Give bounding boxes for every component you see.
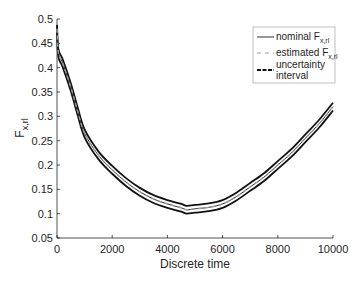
y-tick-label: 0.45 (32, 37, 53, 49)
x-tick-label: 8000 (266, 243, 290, 255)
x-tick-label: 0 (54, 243, 60, 255)
legend: nominal Fx,rl estimated Fx,rl uncertaint… (253, 27, 338, 83)
y-tick-label: 0.35 (32, 86, 53, 98)
x-axis-title: Discrete time (160, 257, 230, 271)
y-axis-title-sub: x,rl (20, 118, 30, 130)
y-tick-label: 0.05 (32, 232, 53, 244)
x-tick-label: 4000 (155, 243, 179, 255)
y-tick-label: 0.1 (38, 208, 53, 220)
y-tick-label: 0.15 (32, 183, 53, 195)
y-tick-label: 0.25 (32, 135, 53, 147)
y-axis-title: Fx,rl (13, 118, 30, 137)
svg-text:Fx,rl: Fx,rl (13, 118, 30, 137)
y-ticks: 0.050.10.150.20.250.30.350.40.450.5 (32, 13, 60, 244)
x-tick-label: 10000 (318, 243, 349, 255)
legend-label-uncertainty-2: interval (276, 70, 308, 81)
y-tick-label: 0.3 (38, 110, 53, 122)
y-tick-label: 0.2 (38, 159, 53, 171)
x-tick-label: 2000 (100, 243, 124, 255)
x-tick-label: 6000 (210, 243, 234, 255)
y-axis-title-main: F (13, 130, 27, 137)
legend-label-uncertainty: uncertainty (276, 59, 325, 70)
line-chart: 0.050.10.150.20.250.30.350.40.450.5 0200… (0, 0, 363, 282)
y-tick-label: 0.4 (38, 62, 53, 74)
y-tick-label: 0.5 (38, 13, 53, 25)
